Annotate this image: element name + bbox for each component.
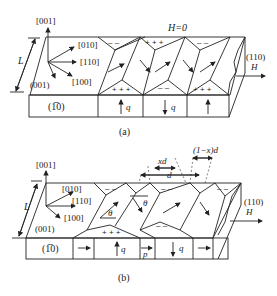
- svg-text:+ + +: + + +: [102, 228, 121, 237]
- axis-100-label: [100]: [64, 213, 84, 223]
- axis-010-label: [010]: [78, 40, 98, 50]
- plane-001-label: (001): [35, 224, 55, 234]
- svg-text:+ + +: + + +: [112, 85, 131, 94]
- domain-structure-diagram: + + + + + + + + + – – – – – – q q (1̅0) …: [0, 0, 277, 296]
- svg-text:– –: – –: [197, 38, 209, 47]
- xd-label: xd: [157, 156, 167, 166]
- q-label: q: [171, 102, 176, 112]
- q-label: q: [126, 102, 131, 112]
- caption-a: (a): [119, 126, 130, 138]
- svg-text:θ: θ: [143, 198, 148, 208]
- svg-text:+ + +: + + +: [193, 85, 212, 94]
- panel-a: + + + + + + + + + – – – – – – q q (1̅0) …: [10, 16, 265, 138]
- q-label: q: [179, 243, 184, 253]
- plane-001-label: (001): [30, 80, 50, 90]
- q-label: q: [121, 244, 126, 254]
- svg-text:– –: – –: [158, 83, 170, 92]
- axis-010-label: [010]: [62, 184, 82, 194]
- top-face-outline: [30, 37, 245, 95]
- svg-text:– –: – –: [161, 184, 173, 193]
- axis-110-label: [110]: [72, 196, 91, 206]
- axis-110-label: [110]: [80, 57, 99, 67]
- one-minus-x-d-label: (1−x)d: [193, 145, 219, 155]
- side-plane-label: (110): [246, 52, 265, 62]
- applied-field-label: H: [250, 62, 258, 72]
- svg-text:– –: – –: [108, 38, 120, 47]
- thickness-label: L: [23, 201, 30, 212]
- panel-b: θ θ + + + – – – – – – – – q p q (1̅0) [0…: [12, 145, 263, 284]
- applied-field-label: H: [245, 207, 253, 217]
- svg-text:– –: – –: [105, 184, 117, 193]
- svg-text:– –: – –: [156, 221, 168, 230]
- p-label: p: [142, 249, 148, 259]
- axis-001-label: [001]: [36, 16, 56, 26]
- field-zero-label: H=0: [167, 22, 187, 33]
- front-plane-label: (1̅0): [48, 101, 65, 113]
- axis-100-label: [100]: [72, 77, 92, 87]
- caption-b: (b): [118, 272, 130, 284]
- svg-text:+ + +: + + +: [145, 38, 164, 47]
- side-plane-label: (110): [244, 197, 263, 207]
- axis-001-label: [001]: [36, 160, 56, 170]
- svg-text:– –: – –: [217, 184, 229, 193]
- thickness-label: L: [17, 55, 24, 66]
- angle-label: θ: [108, 208, 113, 218]
- front-plane-label: (1̅0): [42, 243, 59, 255]
- period-d-label: d: [167, 170, 172, 180]
